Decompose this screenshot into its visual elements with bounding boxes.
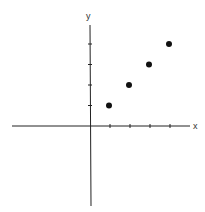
y-axis bbox=[90, 25, 91, 206]
data-points bbox=[106, 41, 172, 109]
axes: x y bbox=[12, 11, 198, 206]
data-point bbox=[146, 62, 152, 68]
data-point bbox=[126, 82, 132, 88]
data-point bbox=[106, 103, 112, 109]
data-point bbox=[166, 41, 172, 47]
x-axis-label: x bbox=[193, 121, 198, 131]
scatter-plot: x y bbox=[0, 0, 205, 212]
y-axis-label: y bbox=[86, 11, 91, 21]
